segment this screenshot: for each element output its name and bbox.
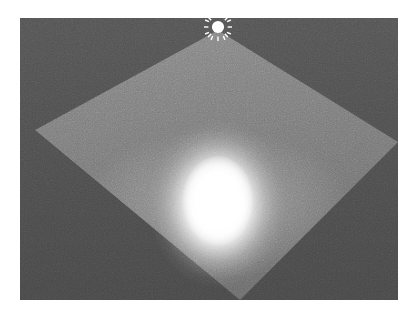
light-gizmo[interactable] xyxy=(203,18,233,42)
screenshot-root: Point light on ground plane ground-plane… xyxy=(0,0,417,318)
scene-geometry xyxy=(20,18,398,300)
render-viewport[interactable]: Point light on ground plane ground-plane… xyxy=(20,18,398,300)
ground-plane-wireframe-grid xyxy=(20,18,398,300)
sun-icon[interactable] xyxy=(203,18,233,42)
